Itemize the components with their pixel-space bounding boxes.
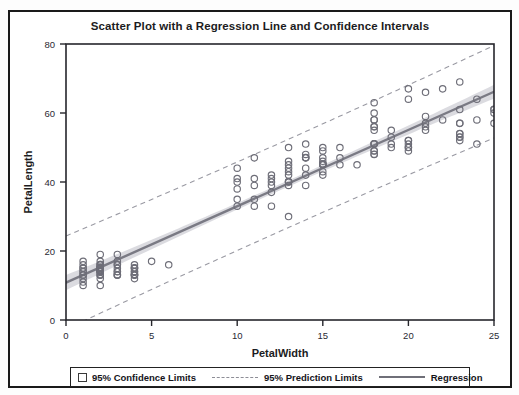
- legend-entry-regression: Regression: [363, 368, 483, 386]
- legend-entry-confidence: 95% Confidence Limits: [71, 368, 196, 386]
- data-point: [405, 96, 411, 102]
- scatter-plot-svg: 020406080 0510152025 PetalLength PetalWi…: [10, 12, 510, 386]
- data-point: [234, 165, 240, 171]
- y-tick-label: 0: [50, 315, 55, 326]
- y-tick-label: 80: [44, 39, 55, 50]
- data-point: [285, 213, 291, 219]
- data-point: [97, 251, 103, 257]
- plot-frame: [66, 44, 494, 320]
- y-tick-label: 40: [44, 177, 55, 188]
- x-axis-title: PetalWidth: [252, 347, 309, 359]
- y-tick-label: 20: [44, 246, 55, 257]
- data-point: [302, 182, 308, 188]
- x-tick-label: 15: [318, 330, 329, 341]
- data-point: [251, 182, 257, 188]
- legend-label-prediction: 95% Prediction Limits: [264, 372, 363, 383]
- data-point: [457, 79, 463, 85]
- data-point: [251, 203, 257, 209]
- chart-screenshot: Scatter Plot with a Regression Line and …: [0, 0, 519, 395]
- data-point: [166, 262, 172, 268]
- data-point: [354, 162, 360, 168]
- data-point: [439, 86, 445, 92]
- chart-legend: 95% Confidence Limits 95% Prediction Lim…: [70, 367, 470, 387]
- data-point: [337, 144, 343, 150]
- data-point: [234, 196, 240, 202]
- x-tick-label: 20: [403, 330, 414, 341]
- data-point: [97, 282, 103, 288]
- x-tick-label: 0: [63, 330, 68, 341]
- data-point: [371, 117, 377, 123]
- x-tick-label: 5: [149, 330, 154, 341]
- chart-area: Scatter Plot with a Regression Line and …: [10, 12, 510, 386]
- data-point: [457, 120, 463, 126]
- y-tick-label: 60: [44, 108, 55, 119]
- y-axis-title: PetalLength: [22, 150, 34, 213]
- dashed-line-swatch-icon: [212, 377, 258, 378]
- data-point: [234, 186, 240, 192]
- data-point: [285, 144, 291, 150]
- data-point: [388, 127, 394, 133]
- x-tick-label: 10: [232, 330, 243, 341]
- legend-label-confidence: 95% Confidence Limits: [92, 372, 196, 383]
- data-point: [302, 141, 308, 147]
- data-point: [251, 175, 257, 181]
- regression-line: [66, 92, 494, 283]
- data-point: [474, 117, 480, 123]
- legend-entry-prediction: 95% Prediction Limits: [196, 368, 363, 386]
- data-point: [371, 110, 377, 116]
- legend-label-regression: Regression: [431, 372, 483, 383]
- data-point: [148, 258, 154, 264]
- data-point: [302, 165, 308, 171]
- square-swatch-icon: [78, 373, 87, 382]
- image-outer-border: Scatter Plot with a Regression Line and …: [8, 10, 512, 388]
- data-point: [405, 86, 411, 92]
- data-point: [268, 203, 274, 209]
- data-point: [251, 155, 257, 161]
- solid-line-swatch-icon: [379, 376, 425, 378]
- data-point: [422, 89, 428, 95]
- x-axis-ticks: 0510152025: [63, 320, 499, 341]
- x-tick-label: 25: [489, 330, 500, 341]
- y-axis-ticks: 020406080: [44, 39, 66, 326]
